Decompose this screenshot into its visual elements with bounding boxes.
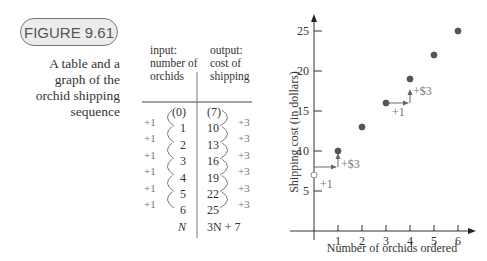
svg-text:+3: +3 — [238, 198, 250, 210]
svg-text:+1: +1 — [320, 177, 333, 191]
svg-text:6: 6 — [180, 203, 186, 217]
svg-text:25: 25 — [207, 203, 219, 217]
svg-text:+3: +3 — [238, 116, 250, 128]
svg-text:Number of orchids ordered: Number of orchids ordered — [327, 241, 457, 255]
svg-text:+1: +1 — [144, 116, 156, 128]
svg-text:+1: +1 — [144, 198, 156, 210]
svg-text:+1: +1 — [144, 132, 156, 144]
svg-text:+3: +3 — [238, 149, 250, 161]
svg-text:N: N — [177, 220, 187, 234]
svg-text:(0): (0) — [172, 105, 186, 119]
svg-text:2: 2 — [180, 138, 186, 152]
figure-graphics: (0)(7)+1+3110+1+3213+1+3316+1+3419+1+352… — [0, 0, 487, 261]
svg-text:(7): (7) — [207, 105, 221, 119]
svg-text:3N + 7: 3N + 7 — [207, 220, 240, 234]
svg-text:+3: +3 — [238, 165, 250, 177]
svg-text:+$3: +$3 — [341, 157, 360, 171]
svg-text:+3: +3 — [238, 182, 250, 194]
svg-text:+1: +1 — [144, 149, 156, 161]
svg-text:25: 25 — [297, 24, 309, 38]
svg-text:5: 5 — [303, 184, 309, 198]
svg-text:1: 1 — [180, 121, 186, 135]
svg-text:Shipping cost (in dollars): Shipping cost (in dollars) — [287, 71, 301, 193]
svg-text:+$3: +$3 — [413, 84, 432, 98]
svg-text:3: 3 — [180, 154, 186, 168]
svg-text:+1: +1 — [392, 105, 405, 119]
svg-text:+1: +1 — [144, 165, 156, 177]
svg-text:13: 13 — [207, 138, 219, 152]
svg-text:16: 16 — [207, 154, 219, 168]
svg-text:+1: +1 — [144, 182, 156, 194]
svg-text:4: 4 — [180, 171, 186, 185]
figure: FIGURE 9.61 A table and a graph of the o… — [0, 0, 487, 261]
svg-text:22: 22 — [207, 187, 219, 201]
svg-text:19: 19 — [207, 171, 219, 185]
svg-text:+3: +3 — [238, 132, 250, 144]
svg-text:5: 5 — [180, 187, 186, 201]
svg-text:10: 10 — [207, 121, 219, 135]
